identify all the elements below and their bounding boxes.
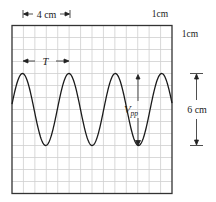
arrow-up-icon [136,75,140,80]
arrow-right-icon [64,59,69,63]
arrow-right-icon [65,12,70,16]
period-label: T [43,56,50,67]
oscilloscope-diagram: 4 cm 1cm 1cm T Vpp 6 cm [0,0,216,202]
amplitude-label-6cm: 6 cm [187,104,207,115]
arrow-down-icon [195,140,199,145]
grid-unit-label-x: 1cm [152,9,169,19]
scale-label-4cm: 4 cm [37,9,57,20]
grid-unit-label-y: 1cm [182,29,199,39]
arrow-up-icon [195,74,199,79]
arrow-left-icon [24,12,29,16]
grid [12,26,172,194]
